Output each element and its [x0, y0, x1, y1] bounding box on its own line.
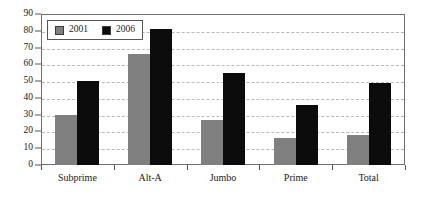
x-axis-tick-mark	[405, 165, 406, 170]
bar-total-2001[interactable]	[347, 135, 369, 165]
y-axis-tick-label: 80	[24, 26, 34, 36]
x-axis-label-alt-a: Alt-A	[139, 173, 162, 183]
legend: 20012006	[47, 20, 143, 40]
bar-alt-a-2006[interactable]	[150, 29, 172, 165]
y-axis-tick-label: 50	[24, 76, 34, 86]
y-axis-tick-label: 70	[24, 43, 34, 53]
legend-label: 2006	[116, 25, 135, 35]
x-axis-tick-mark	[114, 165, 115, 170]
bar-chart: 0102030405060708090 SubprimeAlt-AJumboPr…	[0, 0, 421, 209]
x-axis: SubprimeAlt-AJumboPrimeTotal	[41, 165, 405, 209]
legend-item-2001[interactable]: 2001	[55, 25, 88, 35]
x-axis-tick-mark	[332, 165, 333, 170]
legend-swatch-icon	[102, 26, 111, 35]
y-axis-tick-label: 30	[24, 110, 34, 120]
x-axis-tick-mark	[41, 165, 42, 170]
y-axis-tick-label: 40	[24, 93, 34, 103]
x-axis-tick-mark	[187, 165, 188, 170]
y-axis-tick-label: 20	[24, 127, 34, 137]
legend-swatch-icon	[55, 26, 64, 35]
y-axis-tick-label: 0	[28, 160, 33, 170]
x-axis-label-subprime: Subprime	[58, 173, 97, 183]
bar-jumbo-2001[interactable]	[201, 120, 223, 165]
bar-prime-2006[interactable]	[296, 105, 318, 165]
x-axis-label-jumbo: Jumbo	[210, 173, 237, 183]
y-axis-tick-label: 10	[24, 143, 34, 153]
bar-total-2006[interactable]	[369, 83, 391, 165]
y-axis: 0102030405060708090	[0, 0, 41, 209]
bar-subprime-2001[interactable]	[55, 115, 77, 165]
bar-alt-a-2001[interactable]	[128, 54, 150, 165]
bar-prime-2001[interactable]	[274, 138, 296, 165]
x-axis-tick-mark	[259, 165, 260, 170]
bar-jumbo-2006[interactable]	[223, 73, 245, 165]
legend-label: 2001	[69, 25, 88, 35]
y-axis-tick-label: 90	[24, 9, 34, 19]
bar-subprime-2006[interactable]	[77, 81, 99, 165]
x-axis-label-prime: Prime	[284, 173, 308, 183]
x-axis-label-total: Total	[358, 173, 378, 183]
legend-item-2006[interactable]: 2006	[102, 25, 135, 35]
y-axis-tick-label: 60	[24, 60, 34, 70]
